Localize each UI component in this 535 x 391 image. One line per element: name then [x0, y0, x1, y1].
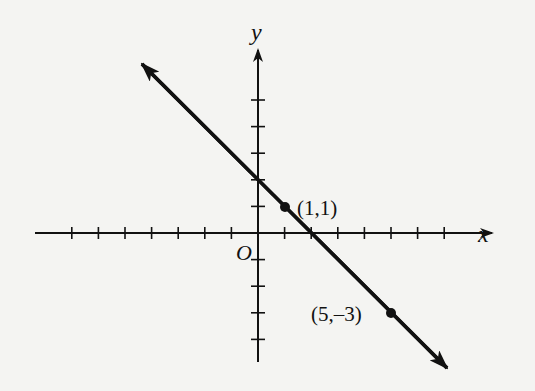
y-axis: y [249, 19, 265, 362]
point-label: (5,–3) [311, 302, 362, 326]
point-label: (1,1) [297, 196, 337, 220]
point-1-1: (1,1) [280, 196, 337, 220]
x-axis-label: x [477, 221, 489, 247]
graph-line-lower-arrow [142, 64, 447, 368]
coordinate-plane-figure: x y O (1,1) (5,–3) [0, 0, 535, 391]
point-marker [386, 308, 396, 318]
x-axis: x [35, 221, 492, 247]
origin-label: O [236, 240, 252, 265]
y-axis-label: y [249, 19, 262, 45]
point-marker [280, 202, 290, 212]
